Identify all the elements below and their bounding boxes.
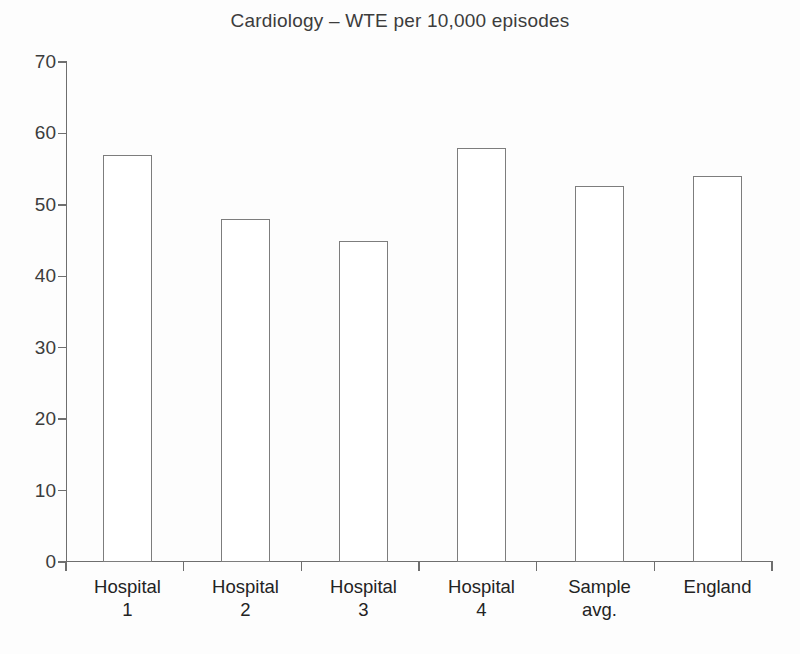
y-axis-tick-label: 0 [10, 552, 56, 571]
y-axis-tick-label: 50 [10, 195, 56, 214]
y-axis-tick [58, 490, 67, 491]
x-axis-category-label: Hospital 3 [305, 576, 423, 621]
x-axis-tick [654, 562, 655, 571]
x-axis-category-label: England [659, 576, 777, 599]
y-axis-tick [58, 204, 67, 205]
y-axis-tick-label: 40 [10, 266, 56, 285]
x-axis-category-label: Hospital 4 [423, 576, 541, 621]
x-axis-tick [771, 562, 772, 571]
y-axis-tick [58, 276, 67, 277]
y-axis-line [66, 62, 67, 563]
y-axis-tick-label: 70 [10, 52, 56, 71]
y-axis-tick-label: 60 [10, 123, 56, 142]
x-axis-tick [536, 562, 537, 571]
x-axis-tick [65, 562, 66, 571]
y-axis-tick [58, 418, 67, 419]
chart-figure: Cardiology – WTE per 10,000 episodes 010… [0, 0, 800, 654]
bar [103, 155, 152, 562]
plot-area: 010203040506070 Hospital 1Hospital 2Hosp… [0, 0, 800, 654]
bar [575, 186, 624, 562]
y-axis-tick [58, 61, 67, 62]
x-axis-category-label: Hospital 2 [187, 576, 305, 621]
bar [339, 241, 388, 562]
bar [693, 176, 742, 562]
x-axis-tick [183, 562, 184, 571]
y-axis-tick [58, 347, 67, 348]
bar [221, 219, 270, 562]
x-axis-category-label: Sample avg. [541, 576, 659, 621]
y-axis-tick-label: 20 [10, 409, 56, 428]
x-axis-tick [301, 562, 302, 571]
y-axis-tick-label: 10 [10, 481, 56, 500]
x-axis-tick [418, 562, 419, 571]
bar [457, 148, 506, 562]
x-axis-category-label: Hospital 1 [69, 576, 187, 621]
y-axis-tick [58, 133, 67, 134]
y-axis-tick-label: 30 [10, 338, 56, 357]
